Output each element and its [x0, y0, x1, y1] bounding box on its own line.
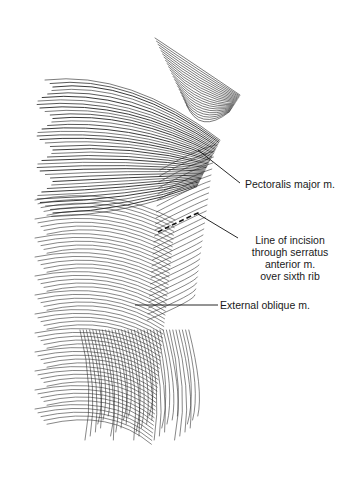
incision-line	[158, 212, 200, 232]
label-incision-line-3: anterior m.	[232, 258, 348, 270]
label-pectoralis-major: Pectoralis major m.	[245, 178, 335, 190]
label-external-oblique: External oblique m.	[220, 299, 310, 311]
muscle-fibers	[35, 38, 240, 444]
label-incision-line-4: over sixth rib	[232, 270, 348, 282]
label-incision-line: Line of incision through serratus anteri…	[232, 234, 348, 282]
label-incision-line-2: through serratus	[232, 246, 348, 258]
leader-line-pectoralis	[198, 150, 240, 183]
label-incision-line-1: Line of incision	[232, 234, 348, 246]
